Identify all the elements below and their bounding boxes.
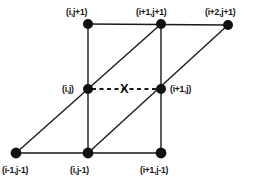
center-x-marker: X [120,82,129,95]
node-label-ip1-jp1: (i+1,j+1) [136,8,166,17]
node-label-i-jm1: (i,j-1) [70,166,89,175]
node-label-im1-jm1: (i-1,j-1) [2,166,28,175]
node-ip1-jp1 [156,19,166,29]
node-i-j [83,84,93,94]
node-ip1-jm1 [156,148,167,159]
node-i-jp1 [83,19,93,29]
node-i-jm1 [83,148,94,159]
node-label-i-j: (i,j) [62,85,74,94]
node-label-ip2-jp1: (i+2,j+1) [205,8,235,17]
stencil-diagram-figure: (i,j+1) (i+1,j+1) (i+2,j+1) (i,j) (i+1,j… [0,0,254,181]
node-label-i-jp1: (i,j+1) [66,8,87,17]
node-label-ip1-j: (i+1,j) [170,85,191,94]
node-im1-jm1 [11,148,22,159]
node-label-ip1-jm1: (i+1,j-1) [140,166,168,175]
node-ip2-jp1 [223,20,233,30]
node-ip1-j [156,84,166,94]
